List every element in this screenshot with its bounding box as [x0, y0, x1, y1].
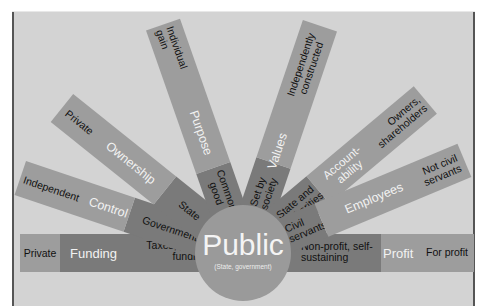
ownership-private-label: Private [63, 108, 95, 137]
funding-private-label: Private [24, 248, 57, 259]
profit-private-segment: Profit For profit [381, 234, 474, 272]
values-category-label: Values [265, 131, 290, 171]
funding-category-label: Funding [70, 246, 117, 261]
ownership-public-label: State [176, 199, 202, 223]
profit-private-label: For profit [426, 247, 468, 258]
profit-category-label: Profit [383, 246, 413, 261]
purpose-private-label: Individual gain [154, 25, 191, 78]
profit-public-label: Non-profit, self-sustaining [301, 241, 381, 263]
control-private-label: Independent [22, 175, 81, 204]
center-circle-public: Public (State, government) [195, 205, 291, 301]
center-title: Public [202, 230, 284, 260]
center-subtitle: (State, government) [214, 263, 271, 270]
control-category-label: Control [87, 195, 130, 221]
purpose-category-label: Purpose [187, 109, 216, 158]
funding-private-segment: Private [20, 234, 60, 272]
